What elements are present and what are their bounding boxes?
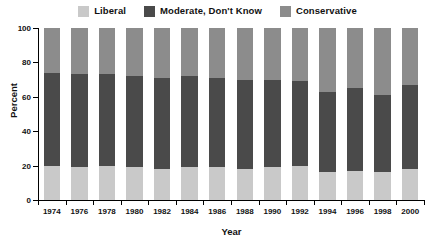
stacked-bar <box>319 28 336 200</box>
y-tick-label: 80 <box>0 58 31 67</box>
bar-column <box>347 28 364 200</box>
bar-segment-liberal <box>402 169 419 200</box>
legend-swatch-moderate <box>144 6 155 17</box>
chart-legend: Liberal Moderate, Don't Know Conservativ… <box>0 2 435 20</box>
x-tick <box>369 200 370 205</box>
stacked-bar <box>71 28 88 200</box>
legend-label-liberal: Liberal <box>94 6 126 16</box>
bar-segment-conservative <box>99 28 116 74</box>
bar-segment-liberal <box>319 172 336 200</box>
legend-item-liberal: Liberal <box>78 6 126 17</box>
x-tick <box>66 200 67 205</box>
bar-segment-conservative <box>71 28 88 74</box>
x-tick-label: 1984 <box>176 208 204 216</box>
bar-column <box>292 28 309 200</box>
bar-segment-moderate-don-t-know <box>71 74 88 167</box>
bar-segment-liberal <box>292 166 309 200</box>
stacked-bar <box>402 28 419 200</box>
x-tick-label: 1992 <box>286 208 314 216</box>
bar-segment-moderate-don-t-know <box>154 78 171 169</box>
stacked-bar <box>126 28 143 200</box>
bar-column <box>154 28 171 200</box>
x-tick <box>93 200 94 205</box>
legend-label-conservative: Conservative <box>296 6 357 16</box>
bar-segment-moderate-don-t-know <box>209 78 226 167</box>
x-tick <box>38 200 39 205</box>
stacked-bar <box>264 28 281 200</box>
x-tick <box>148 200 149 205</box>
x-tick-label: 1998 <box>369 208 397 216</box>
legend-item-moderate: Moderate, Don't Know <box>144 6 262 17</box>
stacked-bar <box>99 28 116 200</box>
bar-segment-liberal <box>181 167 198 200</box>
bar-segment-liberal <box>99 166 116 200</box>
bar-column <box>402 28 419 200</box>
x-tick-label: 1974 <box>38 208 66 216</box>
y-tick-label: 60 <box>0 93 31 102</box>
bar-segment-moderate-don-t-know <box>319 92 336 173</box>
legend-swatch-liberal <box>78 6 89 17</box>
x-tick-label: 1990 <box>259 208 287 216</box>
bar-segment-conservative <box>402 28 419 85</box>
bar-column <box>71 28 88 200</box>
x-tick-label: 1986 <box>203 208 231 216</box>
stacked-bar <box>154 28 171 200</box>
bar-segment-conservative <box>264 28 281 80</box>
bar-segment-liberal <box>264 167 281 200</box>
x-tick <box>203 200 204 205</box>
stacked-bar <box>237 28 254 200</box>
stacked-bar <box>44 28 61 200</box>
legend-swatch-conservative <box>280 6 291 17</box>
bar-column <box>126 28 143 200</box>
x-tick <box>314 200 315 205</box>
legend-item-conservative: Conservative <box>280 6 357 17</box>
x-tick-label: 1980 <box>121 208 149 216</box>
stacked-bar-chart: Liberal Moderate, Don't Know Conservativ… <box>0 0 435 241</box>
bar-segment-conservative <box>154 28 171 78</box>
bar-column <box>181 28 198 200</box>
bar-segment-conservative <box>292 28 309 81</box>
x-tick <box>259 200 260 205</box>
bar-segment-liberal <box>347 171 364 200</box>
bar-segment-moderate-don-t-know <box>402 85 419 169</box>
bar-column <box>237 28 254 200</box>
stacked-bar <box>292 28 309 200</box>
x-tick <box>231 200 232 205</box>
bar-segment-conservative <box>347 28 364 88</box>
bar-segment-liberal <box>237 169 254 200</box>
legend-label-moderate: Moderate, Don't Know <box>160 6 262 16</box>
bar-segment-liberal <box>154 169 171 200</box>
bar-segment-conservative <box>181 28 198 76</box>
bar-segment-moderate-don-t-know <box>374 95 391 172</box>
y-tick-label: 0 <box>0 196 31 205</box>
bar-series-area <box>38 28 424 200</box>
x-tick <box>121 200 122 205</box>
x-tick-label: 1988 <box>231 208 259 216</box>
bar-segment-moderate-don-t-know <box>237 80 254 169</box>
bar-segment-moderate-don-t-know <box>292 81 309 165</box>
bar-segment-liberal <box>71 167 88 200</box>
x-tick <box>341 200 342 205</box>
x-tick <box>424 200 425 205</box>
bar-segment-conservative <box>126 28 143 76</box>
stacked-bar <box>374 28 391 200</box>
x-tick-label: 1978 <box>93 208 121 216</box>
bar-segment-conservative <box>374 28 391 95</box>
bar-column <box>44 28 61 200</box>
bar-column <box>374 28 391 200</box>
bar-segment-liberal <box>209 167 226 200</box>
bar-segment-moderate-don-t-know <box>264 80 281 168</box>
bar-segment-conservative <box>237 28 254 80</box>
bar-segment-conservative <box>209 28 226 78</box>
bar-segment-moderate-don-t-know <box>126 76 143 167</box>
x-tick-label: 1994 <box>314 208 342 216</box>
bar-segment-conservative <box>44 28 61 73</box>
bar-segment-liberal <box>126 167 143 200</box>
bar-column <box>319 28 336 200</box>
stacked-bar <box>347 28 364 200</box>
x-tick-label: 1996 <box>341 208 369 216</box>
bar-segment-moderate-don-t-know <box>44 73 61 166</box>
y-tick-label: 100 <box>0 24 31 33</box>
x-tick <box>396 200 397 205</box>
bar-column <box>264 28 281 200</box>
